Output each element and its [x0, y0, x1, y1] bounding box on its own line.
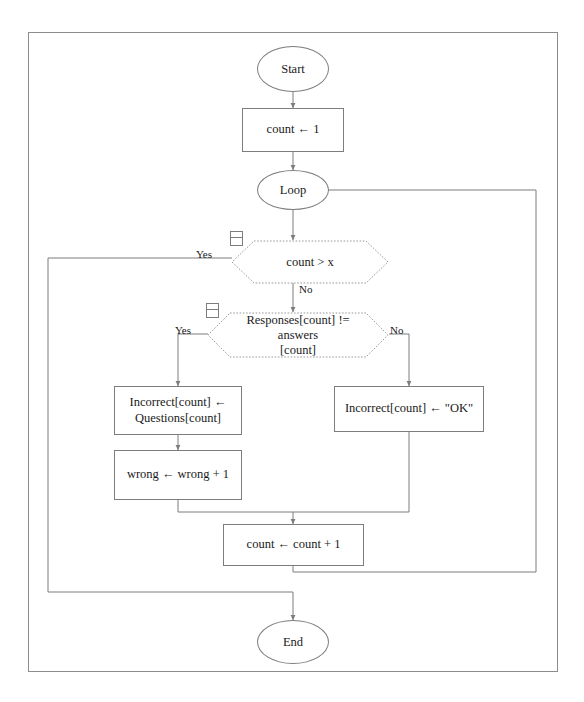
- node-init-count[interactable]: count ← 1: [242, 108, 344, 152]
- node-loop[interactable]: Loop: [257, 170, 329, 210]
- node-check-count-label: count > x: [286, 255, 333, 270]
- edge-check-answer-no: [389, 334, 409, 386]
- node-check-answer-line1: Responses[count] != answers: [246, 313, 349, 342]
- node-incorrect-question-label: Incorrect[count] ← Questions[count]: [130, 395, 227, 426]
- edge-label-check-count-yes: Yes: [196, 248, 212, 260]
- edge-ok-to-merge: [293, 432, 409, 512]
- node-check-answer-label: Responses[count] != answers [count]: [233, 313, 363, 358]
- node-loop-label: Loop: [280, 183, 306, 198]
- node-check-count[interactable]: count > x: [231, 240, 389, 284]
- flowchart-canvas: Start count ← 1 Loop count > x Responses…: [0, 0, 584, 702]
- node-incorrect-question-line1: Incorrect[count] ←: [130, 395, 227, 409]
- node-incorrect-question-line2: Questions[count]: [135, 411, 221, 425]
- edge-label-check-count-no: No: [299, 283, 312, 295]
- node-start[interactable]: Start: [257, 46, 329, 92]
- node-check-answer[interactable]: Responses[count] != answers [count]: [207, 312, 389, 358]
- node-end[interactable]: End: [257, 620, 329, 664]
- node-wrong-increment[interactable]: wrong ← wrong + 1: [114, 450, 242, 500]
- node-incorrect-ok[interactable]: Incorrect[count] ← "OK": [334, 386, 484, 432]
- collapse-handle-icon-check-count[interactable]: [230, 231, 243, 246]
- node-init-count-label: count ← 1: [267, 122, 320, 138]
- node-check-answer-line2: [count]: [280, 343, 316, 357]
- edge-label-check-answer-no: No: [390, 324, 403, 336]
- node-count-increment-label: count ← count + 1: [247, 537, 341, 553]
- edge-wrong-to-count-increment: [178, 500, 293, 524]
- node-end-label: End: [283, 635, 303, 650]
- edge-label-check-answer-yes: Yes: [175, 324, 191, 336]
- node-incorrect-question[interactable]: Incorrect[count] ← Questions[count]: [114, 386, 242, 435]
- edge-check-answer-yes: [178, 334, 208, 386]
- node-count-increment[interactable]: count ← count + 1: [223, 524, 364, 566]
- node-wrong-increment-label: wrong ← wrong + 1: [127, 467, 229, 483]
- node-incorrect-ok-label: Incorrect[count] ← "OK": [345, 401, 473, 417]
- collapse-handle-icon-check-answer[interactable]: [206, 303, 219, 318]
- node-start-label: Start: [281, 62, 305, 77]
